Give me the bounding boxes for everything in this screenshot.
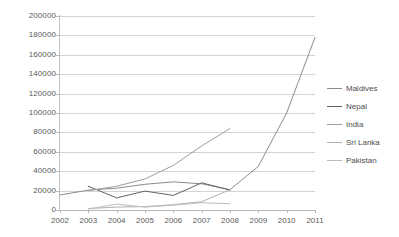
y-tick-mark [56, 74, 59, 75]
y-tick-label: 0 [2, 205, 56, 214]
legend-line-swatch [327, 142, 342, 143]
series-line-nepal [88, 183, 230, 198]
chart-legend: MaldivesNepalIndiaSri LankaPakistan [327, 80, 399, 170]
x-tick-label: 2011 [306, 216, 323, 225]
legend-line-swatch [327, 106, 342, 107]
y-tick-mark [56, 35, 59, 36]
y-tick-label: 20000 [2, 186, 56, 195]
x-tick-mark [145, 210, 146, 213]
y-tick-label: 120000 [2, 89, 56, 98]
legend-label: India [346, 120, 363, 129]
y-tick-label: 140000 [2, 69, 56, 78]
x-tick-label: 2006 [164, 216, 182, 225]
legend-line-swatch [327, 88, 342, 89]
plot-area [60, 16, 315, 210]
x-axis-tick-labels: 2002200320042005200620072008200920102011 [60, 214, 316, 232]
y-tick-mark [56, 210, 59, 211]
series-line-pakistan [88, 203, 230, 209]
y-tick-label: 60000 [2, 147, 56, 156]
x-tick-label: 2010 [278, 216, 296, 225]
y-tick-mark [56, 55, 59, 56]
x-tick-mark [117, 210, 118, 213]
series-layer [60, 16, 315, 210]
x-tick-label: 2003 [79, 216, 97, 225]
legend-item-pakistan[interactable]: Pakistan [327, 152, 399, 169]
legend-line-swatch [327, 124, 342, 125]
x-tick-mark [88, 210, 89, 213]
y-tick-mark [56, 152, 59, 153]
x-tick-mark [230, 210, 231, 213]
x-tick-mark [258, 210, 259, 213]
y-tick-label: 180000 [2, 30, 56, 39]
line-chart: 0200004000060000800001000001200001400001… [0, 0, 399, 237]
x-tick-label: 2009 [249, 216, 267, 225]
legend-item-india[interactable]: India [327, 116, 399, 133]
y-tick-mark [56, 171, 59, 172]
x-tick-label: 2008 [221, 216, 239, 225]
y-tick-mark [56, 113, 59, 114]
series-line-india [88, 129, 230, 191]
legend-item-sri-lanka[interactable]: Sri Lanka [327, 134, 399, 151]
y-tick-mark [56, 94, 59, 95]
y-tick-label: 200000 [2, 11, 56, 20]
y-tick-label: 160000 [2, 50, 56, 59]
legend-label: Pakistan [346, 156, 377, 165]
x-tick-label: 2007 [193, 216, 211, 225]
y-tick-mark [56, 191, 59, 192]
y-tick-label: 80000 [2, 127, 56, 136]
y-tick-label: 40000 [2, 166, 56, 175]
x-tick-label: 2005 [136, 216, 154, 225]
legend-label: Sri Lanka [346, 138, 380, 147]
x-tick-mark [315, 210, 316, 213]
y-tick-label: 100000 [2, 108, 56, 117]
series-line-maldives [60, 37, 315, 195]
y-tick-mark [56, 16, 59, 17]
x-tick-label: 2002 [51, 216, 69, 225]
legend-line-swatch [327, 160, 342, 161]
legend-label: Maldives [346, 84, 378, 93]
y-axis-line [59, 15, 60, 211]
x-axis-line [59, 210, 316, 211]
y-tick-mark [56, 132, 59, 133]
x-tick-mark [287, 210, 288, 213]
x-tick-mark [173, 210, 174, 213]
legend-item-maldives[interactable]: Maldives [327, 80, 399, 97]
legend-item-nepal[interactable]: Nepal [327, 98, 399, 115]
y-axis-tick-labels: 0200004000060000800001000001200001400001… [0, 0, 56, 237]
x-tick-mark [60, 210, 61, 213]
x-tick-mark [202, 210, 203, 213]
x-tick-label: 2004 [108, 216, 126, 225]
legend-label: Nepal [346, 102, 367, 111]
